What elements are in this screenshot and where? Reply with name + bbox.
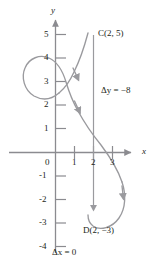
- curve-segment-loop: [23, 56, 78, 111]
- delta-y-annotation: Δy = −8: [101, 86, 130, 95]
- y-tick-label-minus-4: -4: [39, 242, 47, 251]
- x-tick-label-3: 3: [110, 158, 115, 167]
- delta-x-annotation: Δx = 0: [52, 248, 76, 257]
- curve-segment-descending: [78, 111, 122, 182]
- y-tick-label-2: 2: [44, 100, 49, 109]
- y-tick-label-5: 5: [44, 30, 49, 39]
- y-tick-label-4: 4: [44, 53, 49, 62]
- x-tick-label-1: 1: [72, 158, 77, 167]
- point-label-c: C(2, 5): [98, 29, 124, 38]
- y-axis-label: y: [51, 6, 55, 15]
- point-label-d: D(2, −3): [83, 226, 114, 235]
- y-tick-label-minus-1: -1: [39, 171, 47, 180]
- graph-figure: y x 0 1 2 3 5 4 3 2 1 -1 -2 -3 -4 C(2, 5…: [0, 0, 159, 264]
- axis-lines: [9, 20, 131, 253]
- curve-segment-upper: [59, 33, 88, 93]
- x-axis-label: x: [142, 147, 146, 156]
- x-tick-label-0: 0: [45, 158, 50, 167]
- x-tick-label-2: 2: [91, 158, 96, 167]
- coordinate-plot-svg: [0, 0, 159, 264]
- y-tick-label-minus-3: -3: [39, 218, 47, 227]
- y-tick-label-minus-2: -2: [39, 195, 47, 204]
- y-tick-label-1: 1: [44, 124, 49, 133]
- y-axis-ticks: [56, 35, 67, 247]
- y-tick-label-3: 3: [44, 77, 49, 86]
